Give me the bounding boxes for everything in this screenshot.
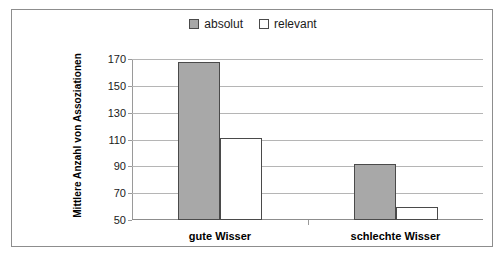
gridline — [132, 59, 483, 60]
hollow-white-square-icon — [259, 19, 269, 29]
y-axis-tick-label: 50 — [114, 215, 126, 226]
category-separator — [308, 220, 309, 225]
plot-area: 507090110130150170 gute Wisserschlechte … — [132, 59, 483, 220]
y-axis-title: Mittlere Anzahl von Assoziationen — [70, 50, 84, 220]
bar-relevant-0 — [220, 138, 262, 220]
legend-entry-relevant: relevant — [259, 18, 317, 30]
plot-wrapper: 507090110130150170 gute Wisserschlechte … — [121, 50, 483, 220]
chart-legend: absolut relevant — [12, 18, 494, 30]
y-axis-tick-label: 170 — [108, 54, 126, 65]
y-axis-tick-mark — [128, 193, 132, 194]
y-axis-tick-label: 130 — [108, 107, 126, 118]
y-axis-tick-label: 150 — [108, 80, 126, 91]
chart-frame: absolut relevant Mittlere Anzahl von Ass… — [11, 9, 493, 247]
y-axis-tick-label: 90 — [114, 161, 126, 172]
y-axis-tick-label: 70 — [114, 188, 126, 199]
caption-sliver — [14, 256, 484, 263]
legend-label-relevant: relevant — [274, 18, 317, 30]
y-axis-tick-mark — [128, 86, 132, 87]
bar-relevant-1 — [396, 207, 438, 220]
bar-absolut-0 — [178, 62, 220, 220]
category-label-0: gute Wisser — [189, 230, 251, 242]
legend-label-absolut: absolut — [204, 18, 243, 30]
y-axis-title-text: Mittlere Anzahl von Assoziationen — [72, 53, 83, 218]
legend-entry-absolut: absolut — [189, 18, 243, 30]
bar-absolut-1 — [354, 164, 396, 220]
y-axis-tick-mark — [128, 220, 132, 221]
y-axis-tick-mark — [128, 140, 132, 141]
y-axis-tick-mark — [128, 113, 132, 114]
category-label-1: schlechte Wisser — [351, 230, 441, 242]
y-axis-tick-mark — [128, 166, 132, 167]
filled-gray-square-icon — [189, 19, 199, 29]
y-axis-tick-label: 110 — [108, 134, 126, 145]
y-axis-tick-mark — [128, 59, 132, 60]
